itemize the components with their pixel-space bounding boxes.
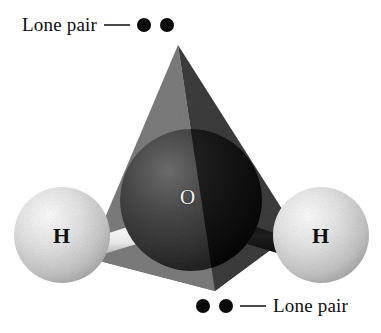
- lone-pair-bottom-label: Lone pair: [273, 295, 348, 317]
- leader-line-bottom: [240, 305, 266, 307]
- electron-dot: [137, 18, 151, 32]
- hydrogen-left-sphere: [14, 187, 110, 283]
- lone-pair-top-callout: Lone pair: [22, 14, 174, 36]
- atom-oxygen: [120, 129, 262, 271]
- lone-pair-top-dots: [137, 18, 174, 32]
- electron-dot: [196, 299, 210, 313]
- lone-pair-bottom-callout: Lone pair: [196, 295, 348, 317]
- electron-dot: [160, 18, 174, 32]
- atom-hydrogen-right: [273, 187, 369, 283]
- water-molecule-figure: O H H Lone pair Lone pair: [0, 0, 381, 333]
- lone-pair-top-label: Lone pair: [22, 14, 97, 36]
- atom-hydrogen-left: [14, 187, 110, 283]
- hydrogen-right-sphere: [273, 187, 369, 283]
- electron-dot: [219, 299, 233, 313]
- leader-line-top: [104, 24, 130, 26]
- lone-pair-bottom-dots: [196, 299, 233, 313]
- molecule-illustration: [0, 0, 381, 333]
